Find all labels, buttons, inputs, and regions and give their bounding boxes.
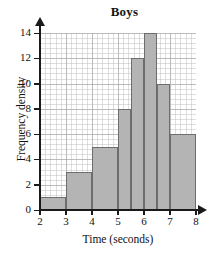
y-axis-tick	[34, 184, 40, 186]
y-axis-tick	[34, 33, 40, 35]
x-axis-line	[40, 209, 200, 211]
y-axis-arrow-icon	[35, 17, 45, 26]
histogram-bar	[66, 172, 92, 210]
y-axis-title: Frequency density	[15, 29, 27, 209]
histogram-bar	[144, 33, 157, 210]
x-axis-tick-label: 8	[186, 216, 206, 227]
histogram-bar	[131, 58, 144, 210]
bar-series	[40, 33, 196, 210]
histogram-chart: Boys 02468101214 2345678 Time (seconds) …	[0, 0, 211, 253]
histogram-bar	[118, 109, 131, 210]
x-axis-tick-label: 6	[134, 216, 154, 227]
histogram-bar	[157, 84, 170, 210]
histogram-bar	[92, 147, 118, 210]
y-axis-tick	[34, 108, 40, 110]
y-axis-line	[39, 24, 41, 211]
x-axis-tick-label: 4	[82, 216, 102, 227]
x-axis-tick-label: 5	[108, 216, 128, 227]
x-axis-arrow-icon	[198, 205, 207, 215]
plot-area	[40, 33, 196, 210]
x-axis-tick-label: 7	[160, 216, 180, 227]
y-axis-tick	[34, 159, 40, 161]
chart-title: Boys	[0, 4, 211, 20]
y-axis-tick	[34, 83, 40, 85]
x-axis-tick-label: 3	[56, 216, 76, 227]
x-axis-tick-label: 2	[30, 216, 50, 227]
y-axis-tick	[34, 58, 40, 60]
x-axis-title: Time (seconds)	[40, 233, 196, 245]
y-axis-tick	[34, 134, 40, 136]
histogram-bar	[170, 134, 196, 210]
